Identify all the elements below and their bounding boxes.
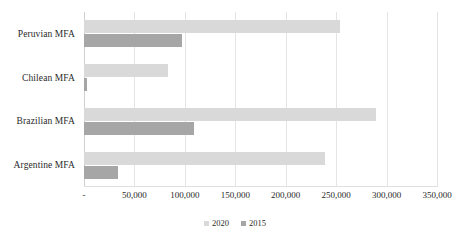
value-axis-tick-label: -: [83, 190, 86, 200]
bar-2020-chilean-mfa: [84, 64, 168, 77]
bar-2020-brazilian-mfa: [84, 108, 376, 121]
value-axis-tick-label: 50,000: [122, 190, 147, 200]
bar-2020-argentine-mfa: [84, 152, 325, 165]
value-axis-tick-label: 350,000: [422, 190, 451, 200]
bar-group-argentine-mfa: [84, 143, 437, 187]
value-axis-ticks: -50,000100,000150,000200,000250,000300,0…: [84, 190, 437, 206]
category-label: Peruvian MFA: [0, 12, 80, 56]
value-axis-tick-label: 150,000: [221, 190, 250, 200]
legend-item-2015: 2015: [241, 218, 266, 228]
category-label: Brazilian MFA: [0, 100, 80, 144]
legend-label: 2020: [212, 218, 229, 228]
bar-2020-peruvian-mfa: [84, 20, 340, 33]
legend-item-2020: 2020: [204, 218, 229, 228]
legend-swatch-icon: [204, 221, 209, 226]
value-axis-tick-label: 200,000: [271, 190, 300, 200]
category-axis: Peruvian MFA Chilean MFA Brazilian MFA A…: [0, 12, 80, 187]
bar-2015-brazilian-mfa: [84, 122, 194, 135]
category-label: Argentine MFA: [0, 143, 80, 187]
plot-area: [84, 12, 437, 187]
value-axis-tick-label: 250,000: [322, 190, 351, 200]
bar-groups: [84, 12, 437, 187]
legend-swatch-icon: [241, 221, 246, 226]
gridline: [437, 12, 438, 187]
value-axis-tick-label: 300,000: [372, 190, 401, 200]
bar-2015-chilean-mfa: [84, 78, 87, 91]
value-axis-tick-label: 100,000: [170, 190, 199, 200]
legend-label: 2015: [249, 218, 266, 228]
bar-2015-peruvian-mfa: [84, 34, 182, 47]
bar-group-peruvian-mfa: [84, 12, 437, 56]
legend: 2020 2015: [0, 218, 470, 228]
bar-group-chilean-mfa: [84, 56, 437, 100]
bar-group-brazilian-mfa: [84, 100, 437, 144]
bar-chart: Peruvian MFA Chilean MFA Brazilian MFA A…: [0, 0, 470, 241]
category-label: Chilean MFA: [0, 56, 80, 100]
bar-2015-argentine-mfa: [84, 166, 118, 179]
